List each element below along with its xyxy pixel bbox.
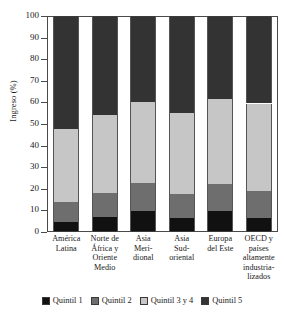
bar-column[interactable] bbox=[53, 16, 79, 232]
bar-column[interactable] bbox=[130, 16, 156, 232]
x-axis-label-line: Meri- bbox=[122, 244, 165, 254]
x-axis-label: Norte deÁfrica yOrienteMedio bbox=[84, 234, 127, 272]
bar-segment[interactable] bbox=[169, 16, 195, 113]
bar-segment[interactable] bbox=[130, 211, 156, 232]
x-axis-label: Europadel Este bbox=[199, 234, 242, 253]
y-axis-tick-label: 100 bbox=[26, 10, 40, 20]
legend-item[interactable]: Quintil 1 bbox=[42, 296, 83, 305]
x-axis-label: AsiaSud-oriental bbox=[161, 234, 204, 263]
bar-segment[interactable] bbox=[207, 99, 233, 184]
x-axis-label-line: industria- bbox=[238, 263, 281, 273]
bar-stack bbox=[130, 16, 156, 232]
legend-swatch bbox=[91, 297, 99, 305]
y-axis-tick-label: 20 bbox=[30, 183, 39, 193]
x-axis-label-line: América bbox=[45, 234, 88, 244]
y-axis-ticks: 0102030405060708090100 bbox=[0, 0, 47, 248]
bar-stack bbox=[246, 16, 272, 232]
y-axis-tick-label: 30 bbox=[30, 161, 39, 171]
bar-segment[interactable] bbox=[169, 194, 195, 218]
y-axis-tick-label: 60 bbox=[30, 96, 39, 106]
bar-segment[interactable] bbox=[130, 16, 156, 102]
legend-label: Quintil 5 bbox=[212, 296, 242, 305]
bar-segment[interactable] bbox=[92, 217, 118, 232]
legend-item[interactable]: Quintil 3 y 4 bbox=[140, 296, 194, 305]
y-axis-tick-label: 10 bbox=[30, 204, 39, 214]
bar-segment[interactable] bbox=[246, 191, 272, 218]
x-axis-label-line: Oriente bbox=[84, 253, 127, 263]
x-axis-label-line: oriental bbox=[161, 253, 204, 263]
bar-segment[interactable] bbox=[207, 184, 233, 211]
x-axis-label-line: Europa bbox=[199, 234, 242, 244]
x-axis-label: AsiaMeri-dional bbox=[122, 234, 165, 263]
x-axis-label-line: Sud- bbox=[161, 244, 204, 254]
bar-segment[interactable] bbox=[130, 183, 156, 211]
bar-segment[interactable] bbox=[92, 115, 118, 193]
bar-column[interactable] bbox=[246, 16, 272, 232]
bar-segment[interactable] bbox=[92, 16, 118, 115]
x-axis-label: AméricaLatina bbox=[45, 234, 88, 253]
bar-segment[interactable] bbox=[53, 222, 79, 232]
legend-label: Quintil 1 bbox=[53, 296, 83, 305]
bar-stack bbox=[207, 16, 233, 232]
x-axis-label-line: del Este bbox=[199, 244, 242, 254]
x-axis-label-line: Norte de bbox=[84, 234, 127, 244]
bar-column[interactable] bbox=[207, 16, 233, 232]
bar-segment[interactable] bbox=[246, 16, 272, 103]
bar-segment[interactable] bbox=[53, 16, 79, 129]
x-axis-label: OECD ypaísesaltamenteindustria-lizados bbox=[238, 234, 281, 282]
bar-column[interactable] bbox=[92, 16, 118, 232]
x-axis-label-line: Asia bbox=[122, 234, 165, 244]
bar-segment[interactable] bbox=[246, 218, 272, 232]
x-axis-label-line: lizados bbox=[238, 272, 281, 282]
y-axis-tick-mark bbox=[41, 232, 47, 233]
bar-segment[interactable] bbox=[246, 104, 272, 191]
bar-stack bbox=[53, 16, 79, 232]
bar-segment[interactable] bbox=[207, 16, 233, 99]
legend-swatch bbox=[201, 297, 209, 305]
stacked-bar-chart: Ingreso (%) 0102030405060708090100 Améri… bbox=[0, 0, 284, 314]
x-axis-label-line: altamente bbox=[238, 253, 281, 263]
legend-swatch bbox=[42, 297, 50, 305]
legend-item[interactable]: Quintil 2 bbox=[91, 296, 132, 305]
bar-segment[interactable] bbox=[53, 202, 79, 223]
y-axis-tick-label: 90 bbox=[30, 32, 39, 42]
x-axis-label-line: Asia bbox=[161, 234, 204, 244]
bars-layer bbox=[47, 16, 278, 232]
chart-legend: Quintil 1Quintil 2Quintil 3 y 4Quintil 5 bbox=[0, 296, 284, 305]
bar-segment[interactable] bbox=[169, 113, 195, 194]
y-axis-tick-label: 70 bbox=[30, 75, 39, 85]
legend-swatch bbox=[140, 297, 148, 305]
y-axis-tick-label: 50 bbox=[30, 118, 39, 128]
y-axis-tick-label: 80 bbox=[30, 53, 39, 63]
bar-segment[interactable] bbox=[53, 129, 79, 201]
bar-stack bbox=[92, 16, 118, 232]
legend-label: Quintil 3 y 4 bbox=[151, 296, 194, 305]
bar-segment[interactable] bbox=[169, 218, 195, 232]
bar-column[interactable] bbox=[169, 16, 195, 232]
bar-segment[interactable] bbox=[130, 102, 156, 183]
x-axis-label-line: países bbox=[238, 244, 281, 254]
bar-segment[interactable] bbox=[207, 211, 233, 232]
x-axis-label-line: Latina bbox=[45, 244, 88, 254]
bar-segment[interactable] bbox=[92, 193, 118, 217]
x-axis-label-line: dional bbox=[122, 253, 165, 263]
y-axis-tick-label: 0 bbox=[35, 226, 40, 236]
legend-label: Quintil 2 bbox=[102, 296, 132, 305]
bar-stack bbox=[169, 16, 195, 232]
y-axis-tick-label: 40 bbox=[30, 140, 39, 150]
x-axis-label-line: África y bbox=[84, 244, 127, 254]
x-axis-labels: AméricaLatinaNorte deÁfrica yOrienteMedi… bbox=[47, 234, 278, 290]
legend-item[interactable]: Quintil 5 bbox=[201, 296, 242, 305]
x-axis-label-line: Medio bbox=[84, 263, 127, 273]
x-axis-label-line: OECD y bbox=[238, 234, 281, 244]
